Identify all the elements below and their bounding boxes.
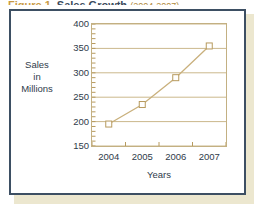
- x-axis-ticks: [92, 142, 226, 146]
- data-point-marker: [206, 43, 212, 49]
- series-line: [109, 46, 210, 124]
- x-axis-tick-label: 2004: [92, 151, 126, 162]
- y-axis-title-line-3: Millions: [13, 83, 61, 95]
- figure-caption-range: (2004-2007): [130, 1, 179, 5]
- data-point-marker: [173, 75, 179, 81]
- y-axis-title: Sales in Millions: [13, 59, 61, 95]
- x-axis-tick-labels: 2004200520062007: [91, 151, 227, 165]
- x-axis-tick-label: 2006: [159, 151, 193, 162]
- x-axis-tick-label: 2005: [125, 151, 159, 162]
- y-axis-tick-label: 250: [63, 92, 89, 102]
- y-axis-minor-ticks: [92, 24, 96, 146]
- x-axis-tick-label: 2007: [192, 151, 226, 162]
- data-point-marker: [139, 102, 145, 108]
- data-point-markers: [106, 43, 213, 127]
- data-point-marker: [106, 121, 112, 127]
- gridlines: [92, 24, 226, 146]
- y-axis-tick-label: 300: [63, 68, 89, 78]
- plot-area: [91, 23, 227, 147]
- y-axis-tick-label: 200: [63, 117, 89, 127]
- figure-caption-number: Figure 1: [8, 0, 51, 5]
- y-axis-tick-label: 350: [63, 43, 89, 53]
- y-axis-title-line-2: in: [13, 71, 61, 83]
- line-chart: Sales in Millions 150200250300350400 200…: [11, 11, 244, 193]
- y-axis-tick-label: 400: [63, 19, 89, 29]
- figure-caption: Figure 1Sales Growth (2004-2007): [8, 0, 252, 5]
- y-axis-tick-label: 150: [63, 141, 89, 151]
- figure-caption-title: Sales Growth: [57, 0, 127, 5]
- x-axis-title: Years: [91, 169, 227, 180]
- figure-frame: Sales in Millions 150200250300350400 200…: [9, 9, 246, 195]
- y-axis-tick-labels: 150200250300350400: [59, 11, 89, 193]
- plot-svg: [92, 24, 226, 146]
- y-axis-title-line-1: Sales: [13, 59, 61, 71]
